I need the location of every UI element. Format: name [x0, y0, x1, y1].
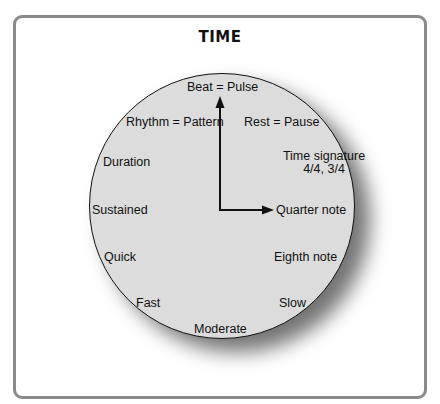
- label-rhythm-pattern: Rhythm = Pattern: [126, 116, 224, 129]
- label-quick: Quick: [104, 251, 136, 264]
- label-duration: Duration: [103, 156, 150, 169]
- label-rest-pause: Rest = Pause: [244, 116, 319, 129]
- minute-hand: [216, 96, 225, 210]
- arrow-up-icon: [216, 96, 225, 108]
- label-eighth-note: Eighth note: [274, 251, 337, 264]
- label-time-signature-line2: 4/4, 3/4: [282, 163, 366, 176]
- hour-hand: [219, 206, 274, 215]
- label-moderate: Moderate: [194, 323, 247, 336]
- label-fast: Fast: [136, 297, 160, 310]
- label-sustained: Sustained: [92, 204, 148, 217]
- label-time-signature: Time signature 4/4, 3/4: [282, 150, 366, 176]
- arrow-right-icon: [262, 206, 274, 215]
- label-beat-pulse: Beat = Pulse: [187, 81, 258, 94]
- label-slow: Slow: [279, 297, 306, 310]
- label-quarter-note: Quarter note: [276, 204, 346, 217]
- clock-hands: [0, 0, 440, 404]
